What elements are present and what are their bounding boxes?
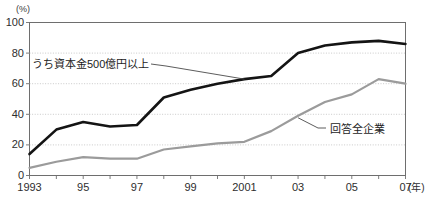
y-tick-label-80: 80 (0, 48, 24, 59)
chart-plot-area (0, 0, 426, 202)
annotation-large-capital: うち資本金500億円以上 (32, 59, 149, 70)
y-tick-label-40: 40 (0, 109, 24, 120)
x-axis-ticks (30, 176, 406, 180)
x-axis-unit-label: (年) (408, 183, 425, 193)
x-tick-label-2001: 2001 (232, 182, 256, 193)
y-axis-ticks (26, 23, 30, 176)
y-tick-label-60: 60 (0, 78, 24, 89)
x-tick-label-2005: 05 (346, 182, 358, 193)
x-tick-label-1995: 95 (77, 182, 89, 193)
line-chart: (%) 100 80 60 40 20 0 199395979920010305… (0, 0, 426, 202)
x-tick-label-2003: 03 (292, 182, 304, 193)
annotation-all-companies: 回答全企業 (330, 124, 385, 135)
y-tick-label-0: 0 (0, 170, 24, 181)
y-tick-label-100: 100 (0, 17, 24, 28)
x-tick-label-1997: 97 (131, 182, 143, 193)
plot-frame (30, 23, 406, 176)
x-tick-label-1999: 99 (184, 182, 196, 193)
y-tick-label-20: 20 (0, 139, 24, 150)
x-tick-label-1993: 1993 (17, 182, 41, 193)
